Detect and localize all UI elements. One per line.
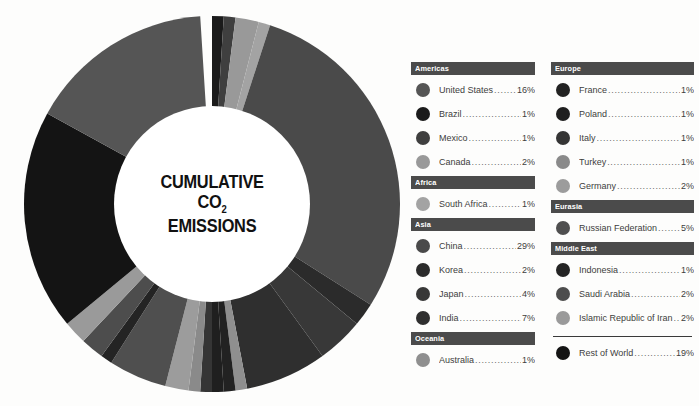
legend-entry-name: Australia bbox=[439, 355, 474, 365]
legend-leader-dots: ...................................... bbox=[631, 289, 680, 299]
legend-entry-name: Canada bbox=[439, 157, 471, 167]
legend-leader-dots: ...................................... bbox=[658, 223, 680, 233]
legend-group: EuropeFrance............................… bbox=[551, 62, 694, 198]
legend-group-header: Americas bbox=[411, 62, 535, 75]
legend-entry-value: 1% bbox=[681, 133, 694, 143]
legend-color-swatch bbox=[556, 311, 570, 325]
legend-entry-value: 1% bbox=[522, 133, 535, 143]
legend-group: EurasiaRussian Federation...............… bbox=[551, 200, 694, 240]
legend-row[interactable]: Japan...................................… bbox=[411, 282, 535, 306]
legend-group-header: Middle East bbox=[551, 242, 694, 255]
legend-color-swatch bbox=[416, 287, 430, 301]
legend-divider bbox=[553, 336, 692, 337]
legend-entry-name: Mexico bbox=[439, 133, 468, 143]
legend-group: AmericasUnited States...................… bbox=[411, 62, 535, 174]
legend-row[interactable]: Korea...................................… bbox=[411, 258, 535, 282]
legend-entry-name: Russian Federation bbox=[579, 223, 657, 233]
legend-row[interactable]: Canada..................................… bbox=[411, 150, 535, 174]
legend-entry: Japan...................................… bbox=[439, 289, 535, 299]
legend-color-swatch bbox=[416, 83, 430, 97]
legend-entry-name: France bbox=[579, 85, 607, 95]
legend-row[interactable]: Mexico..................................… bbox=[411, 126, 535, 150]
legend-entry-value: 2% bbox=[522, 265, 535, 275]
legend-color-swatch bbox=[556, 83, 570, 97]
legend-color-swatch bbox=[556, 221, 570, 235]
donut-chart-svg bbox=[22, 14, 402, 394]
legend-entry-name: Brazil bbox=[439, 109, 462, 119]
legend-entry: Islamic Republic of Iran................… bbox=[579, 313, 694, 323]
legend-entry-value: 5% bbox=[681, 223, 694, 233]
legend-color-swatch bbox=[416, 239, 430, 253]
legend-entry: Australia...............................… bbox=[439, 355, 535, 365]
legend-entry: Mexico..................................… bbox=[439, 133, 535, 143]
legend-group: AsiaChina...............................… bbox=[411, 218, 535, 330]
legend-group-title: Europe bbox=[555, 64, 581, 73]
legend-leader-dots: ...................................... bbox=[608, 109, 680, 119]
legend-row[interactable]: Rest of World...........................… bbox=[551, 341, 694, 365]
legend-entry-name: Italy bbox=[579, 133, 596, 143]
legend-entry: Germany.................................… bbox=[579, 181, 694, 191]
legend-entry: Turkey..................................… bbox=[579, 157, 694, 167]
legend-entry-value: 4% bbox=[522, 289, 535, 299]
legend-row[interactable]: Turkey..................................… bbox=[551, 150, 694, 174]
legend-leader-dots: ...................................... bbox=[464, 265, 521, 275]
legend-entry-value: 2% bbox=[681, 289, 694, 299]
legend-row[interactable]: Russian Federation......................… bbox=[551, 216, 694, 240]
legend-entry-name: Japan bbox=[439, 289, 464, 299]
legend-row[interactable]: China...................................… bbox=[411, 234, 535, 258]
legend-row[interactable]: United States...........................… bbox=[411, 78, 535, 102]
legend-leader-dots: ...................................... bbox=[469, 133, 521, 143]
legend-leader-dots: ...................................... bbox=[608, 85, 680, 95]
legend-row[interactable]: South Africa............................… bbox=[411, 192, 535, 216]
legend-leader-dots: ...................................... bbox=[617, 181, 680, 191]
legend-color-swatch bbox=[416, 197, 430, 211]
legend-color-swatch bbox=[556, 287, 570, 301]
legend-leader-dots: ...................................... bbox=[475, 355, 521, 365]
legend-row[interactable]: Saudi Arabia............................… bbox=[551, 282, 694, 306]
legend-group-title: Eurasia bbox=[555, 202, 582, 211]
legend-leader-dots: ...................................... bbox=[597, 133, 680, 143]
legend-entry: Canada..................................… bbox=[439, 157, 535, 167]
legend-column-right: EuropeFrance............................… bbox=[551, 62, 694, 365]
legend-color-swatch bbox=[416, 107, 430, 121]
legend-color-swatch bbox=[416, 263, 430, 277]
legend-entry: India...................................… bbox=[439, 313, 535, 323]
legend-row[interactable]: Indonesia...............................… bbox=[551, 258, 694, 282]
legend-group-header: Africa bbox=[411, 176, 535, 189]
legend-color-swatch bbox=[416, 311, 430, 325]
legend-leader-dots: ...................................... bbox=[463, 109, 521, 119]
legend-entry-name: Germany bbox=[579, 181, 616, 191]
legend-entry: Rest of World...........................… bbox=[579, 348, 694, 358]
legend-leader-dots: ...................................... bbox=[465, 289, 521, 299]
legend-entry-value: 2% bbox=[681, 313, 694, 323]
legend-color-swatch bbox=[556, 179, 570, 193]
legend-group-title: Oceania bbox=[415, 334, 444, 343]
legend-column-left: AmericasUnited States...................… bbox=[411, 62, 535, 374]
legend-entry-value: 2% bbox=[681, 181, 694, 191]
legend-group: Middle EastIndonesia....................… bbox=[551, 242, 694, 330]
legend-entry-value: 2% bbox=[522, 157, 535, 167]
legend-group-header: Oceania bbox=[411, 332, 535, 345]
legend-row[interactable]: India...................................… bbox=[411, 306, 535, 330]
legend-color-swatch bbox=[416, 155, 430, 169]
donut-chart: CUMULATIVE CO2 EMISSIONS bbox=[22, 14, 402, 394]
legend-row[interactable]: Germany.................................… bbox=[551, 174, 694, 198]
legend-group-header: Asia bbox=[411, 218, 535, 231]
legend-entry: South Africa............................… bbox=[439, 199, 535, 209]
legend-row[interactable]: Australia...............................… bbox=[411, 348, 535, 372]
legend-row[interactable]: Islamic Republic of Iran................… bbox=[551, 306, 694, 330]
legend-group-title: Africa bbox=[415, 178, 436, 187]
legend-entry: Brazil..................................… bbox=[439, 109, 535, 119]
legend-row[interactable]: Poland..................................… bbox=[551, 102, 694, 126]
legend-entry-value: 1% bbox=[681, 265, 694, 275]
legend-leader-dots: ...................................... bbox=[472, 157, 521, 167]
legend-entry: France..................................… bbox=[579, 85, 694, 95]
legend-color-swatch bbox=[556, 131, 570, 145]
legend-row[interactable]: Brazil..................................… bbox=[411, 102, 535, 126]
legend-color-swatch bbox=[416, 353, 430, 367]
legend-group-title: Americas bbox=[415, 64, 449, 73]
legend-entry: Poland..................................… bbox=[579, 109, 694, 119]
legend-entry: China...................................… bbox=[439, 241, 535, 251]
legend-row[interactable]: France..................................… bbox=[551, 78, 694, 102]
legend-row[interactable]: Italy...................................… bbox=[551, 126, 694, 150]
